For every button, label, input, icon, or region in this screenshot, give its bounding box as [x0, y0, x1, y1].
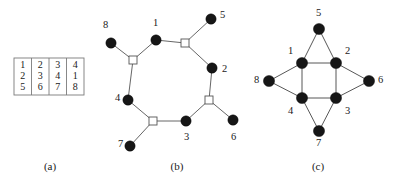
vertex-label: 3 — [345, 105, 350, 116]
circle-vertex[interactable] — [296, 57, 307, 68]
vertex-label: 2 — [345, 45, 350, 56]
table-cell: 6 — [38, 81, 43, 92]
vertex-label: 7 — [316, 137, 321, 148]
circle-vertex[interactable] — [181, 116, 191, 126]
table-cell: 3 — [55, 59, 60, 70]
square-vertex[interactable] — [129, 56, 137, 64]
vertex-label: 8 — [254, 74, 259, 85]
vertex-label: 7 — [118, 138, 123, 149]
table-column: 236 — [38, 59, 43, 92]
figure-root: 125236347418 81526374 51286437 (a)(b)(c) — [0, 0, 396, 187]
circle-vertex[interactable] — [363, 75, 374, 86]
circle-vertex[interactable] — [206, 14, 216, 24]
circle-vertex[interactable] — [106, 38, 116, 48]
vertex-label: 4 — [288, 105, 294, 116]
square-vertex[interactable] — [181, 39, 189, 47]
table-cell: 7 — [55, 81, 60, 92]
table-cell: 1 — [20, 59, 25, 70]
vertex-label: 1 — [288, 45, 293, 56]
table-column: 347 — [55, 59, 60, 92]
square-vertex[interactable] — [149, 117, 157, 125]
circle-vertex[interactable] — [296, 92, 307, 103]
circle-vertex[interactable] — [228, 115, 238, 125]
vertex-label: 6 — [378, 74, 383, 85]
panel-a-table: 125236347418 — [14, 58, 84, 95]
vertex-label: 3 — [184, 131, 189, 142]
circle-vertex[interactable] — [207, 63, 217, 73]
circle-vertex[interactable] — [313, 23, 324, 34]
panel-caption-b: (b) — [171, 160, 184, 173]
table-cell: 8 — [73, 81, 78, 92]
table-cell: 5 — [20, 81, 25, 92]
square-vertex[interactable] — [205, 96, 213, 104]
table-cell: 4 — [73, 59, 78, 70]
vertex-label: 4 — [115, 92, 121, 103]
vertex-label: 1 — [153, 17, 158, 28]
circle-vertex[interactable] — [263, 75, 274, 86]
vertex-label: 6 — [231, 131, 236, 142]
table-cell: 2 — [38, 59, 43, 70]
circle-vertex[interactable] — [123, 95, 133, 105]
circle-vertex[interactable] — [330, 92, 341, 103]
panel-caption-a: (a) — [44, 160, 57, 173]
table-column: 125 — [20, 59, 25, 92]
panel-caption-c: (c) — [312, 160, 325, 173]
table-cell: 4 — [55, 70, 60, 81]
vertex-label: 8 — [103, 19, 108, 30]
circle-vertex[interactable] — [330, 57, 341, 68]
table-cell: 2 — [20, 70, 25, 81]
table-cell: 1 — [73, 70, 78, 81]
circle-vertex[interactable] — [313, 125, 324, 136]
vertex-label: 2 — [222, 63, 227, 74]
circle-vertex[interactable] — [125, 141, 135, 151]
circle-vertex[interactable] — [151, 35, 161, 45]
table-cell: 3 — [38, 70, 43, 81]
table-column: 418 — [73, 59, 78, 92]
vertex-label: 5 — [220, 9, 225, 20]
vertex-label: 5 — [316, 7, 321, 18]
